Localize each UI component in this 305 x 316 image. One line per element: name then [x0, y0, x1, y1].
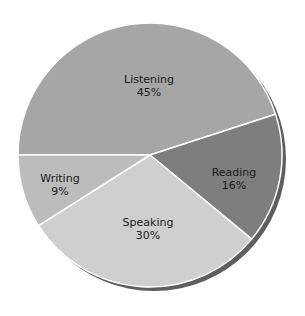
slice-percent: 16%	[222, 179, 246, 192]
slice-name: Reading	[212, 166, 257, 179]
pie-chart: Listening 45% Reading 16% Speaking 30% W…	[0, 0, 305, 316]
slice-name: Speaking	[123, 216, 174, 229]
pie-slices	[18, 23, 282, 287]
slice-percent: 30%	[136, 229, 160, 242]
slice-name: Writing	[40, 172, 79, 185]
slice-name: Listening	[124, 73, 174, 86]
slice-percent: 9%	[51, 185, 68, 198]
slice-percent: 45%	[137, 86, 161, 99]
